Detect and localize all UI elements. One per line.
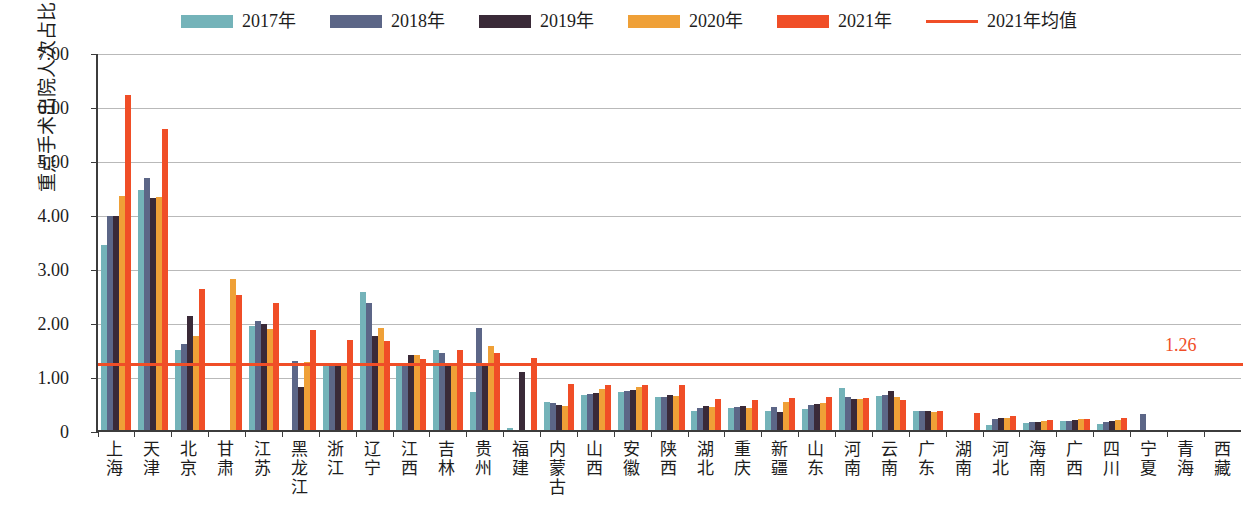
bar (199, 289, 205, 430)
bar-group (909, 54, 946, 430)
x-axis-label-char: 州 (475, 459, 492, 478)
legend-label: 2021年 (838, 12, 892, 30)
x-axis-label-char: 福 (512, 440, 529, 459)
x-axis-label-char: 江 (327, 459, 344, 478)
legend-item-2[interactable]: 2019年 (479, 12, 594, 30)
x-axis-label-char: 藏 (1214, 459, 1231, 478)
x-axis-label: 西藏 (1204, 440, 1241, 516)
legend-item-0[interactable]: 2017年 (181, 12, 296, 30)
x-axis-label-char: 吉 (438, 440, 455, 459)
bar (752, 400, 758, 430)
x-tick-mark (466, 430, 467, 437)
bar (826, 397, 832, 430)
bar (420, 359, 426, 430)
bar (273, 303, 279, 430)
bar-group (946, 54, 983, 430)
x-axis-label-char: 黑 (291, 440, 308, 459)
bar (125, 95, 131, 430)
chart-container: 2017年2018年2019年2020年2021年2021年均值 重点手术出院人… (0, 0, 1258, 517)
x-axis-label-char: 津 (143, 459, 160, 478)
bar-group (1020, 54, 1057, 430)
bar-group (356, 54, 393, 430)
x-axis-label: 黑龙江 (281, 440, 318, 516)
bar-group (246, 54, 283, 430)
x-axis-label: 新疆 (761, 440, 798, 516)
x-tick-mark (98, 430, 99, 437)
x-axis-label: 江西 (391, 440, 428, 516)
x-axis-label: 辽宁 (354, 440, 391, 516)
x-axis-label-char: 北 (180, 440, 197, 459)
y-tick-mark (91, 54, 98, 55)
bar (642, 385, 648, 430)
x-axis-label-char: 河 (992, 440, 1009, 459)
legend-item-3[interactable]: 2020年 (628, 12, 743, 30)
x-tick-mark (614, 430, 615, 437)
x-axis-labels: 上海天津北京甘肃江苏黑龙江浙江辽宁江西吉林贵州福建内蒙古山西安徽陕西湖北重庆新疆… (96, 440, 1241, 516)
x-tick-mark (577, 430, 578, 437)
x-axis-label-char: 甘 (217, 440, 234, 459)
bar-group (504, 54, 541, 430)
x-axis-label-char: 山 (586, 440, 603, 459)
bar-group (1204, 54, 1241, 430)
y-tick-label: 4.00 (13, 207, 69, 225)
x-axis-label-char: 龙 (291, 459, 308, 478)
bar (863, 398, 869, 430)
x-axis-label: 北京 (170, 440, 207, 516)
x-axis-label-char: 新 (771, 440, 788, 459)
x-tick-mark (1130, 430, 1131, 437)
bar (568, 384, 574, 430)
x-axis-label-char: 北 (697, 459, 714, 478)
bar-group (577, 54, 614, 430)
x-tick-mark (1167, 430, 1168, 437)
x-axis-label: 甘肃 (207, 440, 244, 516)
x-axis-label-char: 西 (660, 459, 677, 478)
x-tick-mark (319, 430, 320, 437)
x-tick-mark (503, 430, 504, 437)
bar-group (762, 54, 799, 430)
legend-item-4[interactable]: 2021年 (777, 12, 892, 30)
y-tick-mark (91, 108, 98, 109)
bar (531, 358, 537, 430)
x-tick-mark (208, 430, 209, 437)
legend-item-5[interactable]: 2021年均值 (926, 12, 1077, 30)
bar-group (282, 54, 319, 430)
x-axis-label-char: 庆 (734, 459, 751, 478)
x-axis-label: 天津 (133, 440, 170, 516)
x-axis-label-char: 内 (549, 440, 566, 459)
x-axis-label: 上海 (96, 440, 133, 516)
x-axis-label-char: 宁 (1140, 440, 1157, 459)
x-axis-label-char: 湖 (697, 440, 714, 459)
bar-group (1094, 54, 1131, 430)
x-axis-label: 重庆 (724, 440, 761, 516)
legend-item-1[interactable]: 2018年 (330, 12, 445, 30)
x-axis-label: 湖南 (945, 440, 982, 516)
y-tick-label: 2.00 (13, 315, 69, 333)
bar-group (651, 54, 688, 430)
bar (974, 413, 980, 430)
bar-group (172, 54, 209, 430)
x-axis-label-char: 西 (1214, 440, 1231, 459)
bar (605, 385, 611, 430)
x-tick-mark (835, 430, 836, 437)
x-axis-label: 福建 (502, 440, 539, 516)
x-axis-label-char: 江 (254, 440, 271, 459)
x-axis-label-char: 苏 (254, 459, 271, 478)
x-axis-label-char: 海 (106, 459, 123, 478)
bar-group (872, 54, 909, 430)
y-tick-mark (91, 216, 98, 217)
bar-group (983, 54, 1020, 430)
x-axis-label-char: 西 (401, 459, 418, 478)
x-axis-label-char: 川 (1103, 459, 1120, 478)
x-tick-mark (540, 430, 541, 437)
bar (310, 330, 316, 430)
x-axis-label-char: 安 (623, 440, 640, 459)
bar (715, 399, 721, 430)
x-tick-mark (798, 430, 799, 437)
average-line-value: 1.26 (1165, 336, 1197, 354)
x-axis-label-char: 西 (1066, 459, 1083, 478)
bar (347, 340, 353, 430)
y-tick-label: 6.00 (13, 99, 69, 117)
x-axis-label-char: 浙 (327, 440, 344, 459)
bar-group (467, 54, 504, 430)
x-axis-label-char: 湖 (955, 440, 972, 459)
